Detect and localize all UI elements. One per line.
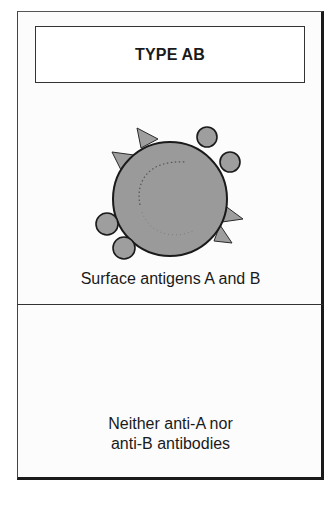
antigen-b-circle-icon: [197, 127, 217, 147]
antigen-b-circle-icon: [113, 237, 135, 259]
antibody-description: Neither anti-A nor anti-B antibodies: [17, 414, 324, 454]
antigen-label: Surface antigens A and B: [17, 270, 324, 288]
antigen-b-circle-icon: [96, 213, 118, 235]
section-divider: [17, 304, 323, 305]
antigen-b-circle-icon: [220, 152, 240, 172]
antibody-line-2: anti-B antibodies: [17, 434, 324, 454]
antibody-line-1: Neither anti-A nor: [17, 414, 324, 434]
